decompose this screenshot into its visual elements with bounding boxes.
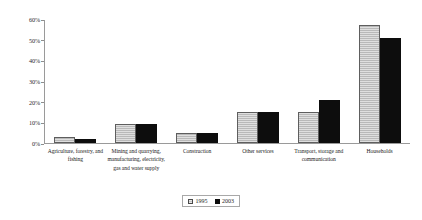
plot-area: 0%10%20%30%40%50%60% Agriculture, forest…: [0, 0, 422, 190]
x-axis-category-label: Households: [349, 147, 410, 155]
legend-swatch-2003-icon: [215, 199, 220, 204]
y-axis-tick-label: 60%: [29, 17, 40, 23]
bar-group: [106, 21, 167, 143]
bar-1995: [176, 133, 197, 143]
bar-chart: 0%10%20%30%40%50%60% Agriculture, forest…: [0, 0, 422, 220]
bars-container: [45, 21, 410, 143]
bar-1995: [237, 112, 258, 143]
x-axis-category-label: Construction: [167, 147, 228, 155]
legend-entry[interactable]: 1995: [188, 198, 208, 204]
legend-label: 2003: [222, 198, 234, 204]
x-axis-labels: Agriculture, forestry, and fishingMining…: [45, 147, 410, 189]
y-axis-tick-label: 40%: [29, 58, 40, 64]
x-axis-category-label: Other services: [227, 147, 288, 155]
bar-group: [349, 21, 410, 143]
y-axis-tick-label: 10%: [29, 120, 40, 126]
bar-1995: [359, 25, 380, 143]
y-axis-tick-label: 20%: [29, 100, 40, 106]
bar-2003: [319, 100, 340, 143]
legend-label: 1995: [196, 198, 208, 204]
x-axis-category-label: Mining and quarrying, manufacturing, ele…: [106, 147, 167, 172]
bar-1995: [298, 112, 319, 143]
bar-2003: [75, 139, 96, 143]
bar-group: [227, 21, 288, 143]
y-axis-tick-label: 50%: [29, 38, 40, 44]
x-axis-category-label: Agriculture, forestry, and fishing: [45, 147, 106, 164]
bar-group: [167, 21, 228, 143]
legend-swatch-1995-icon: [188, 199, 193, 204]
bar-2003: [136, 124, 157, 143]
bar-1995: [54, 137, 75, 143]
y-axis-tick-label: 30%: [29, 79, 40, 85]
bar-group: [288, 21, 349, 143]
legend-entry[interactable]: 2003: [215, 198, 235, 204]
bar-2003: [258, 112, 279, 143]
x-axis-line: [44, 143, 410, 144]
bar-2003: [380, 38, 401, 143]
x-axis-category-label: Transport, storage and communication: [288, 147, 349, 164]
chart-legend: 19952003: [182, 195, 240, 207]
bar-group: [45, 21, 106, 143]
y-axis-tick-label: 0%: [32, 141, 40, 147]
y-axis: 0%10%20%30%40%50%60%: [14, 16, 40, 144]
bar-1995: [115, 124, 136, 143]
bar-2003: [197, 133, 218, 143]
